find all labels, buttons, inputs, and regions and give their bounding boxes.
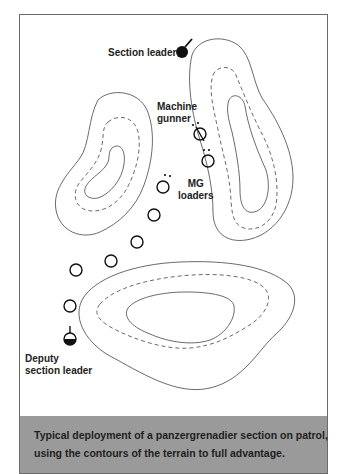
- mg-loaders-label-line1: MG: [178, 178, 214, 190]
- soldier-marker: [64, 209, 160, 312]
- mg-loaders-label-line2: loaders: [178, 190, 214, 202]
- deputy-leader-label-line1: Deputy: [25, 353, 92, 365]
- contour-hill-north-east: [190, 39, 293, 241]
- deputy-leader-marker: [64, 326, 76, 345]
- contour-hill-west: [55, 93, 152, 235]
- caption-line-1: Typical deployment of a panzergrenadier …: [34, 426, 327, 444]
- machine-gunner-label-line1: Machine: [157, 101, 197, 113]
- mg-loader-marker: [157, 174, 171, 193]
- deputy-leader-label-line2: section leader: [25, 365, 92, 377]
- machine-gunner-label-line2: gunner: [157, 113, 197, 125]
- deputy-leader-label: Deputy section leader: [25, 353, 92, 377]
- section-leader-label: Section leader: [108, 47, 176, 59]
- mg-loaders-label: MG loaders: [178, 178, 214, 202]
- figure-caption: Typical deployment of a panzergrenadier …: [19, 416, 328, 474]
- machine-gunner-label: Machine gunner: [157, 101, 197, 125]
- caption-line-2: using the contours of the terrain to ful…: [34, 444, 327, 462]
- contour-hill-south: [79, 262, 295, 390]
- section-leader-marker: [176, 39, 192, 58]
